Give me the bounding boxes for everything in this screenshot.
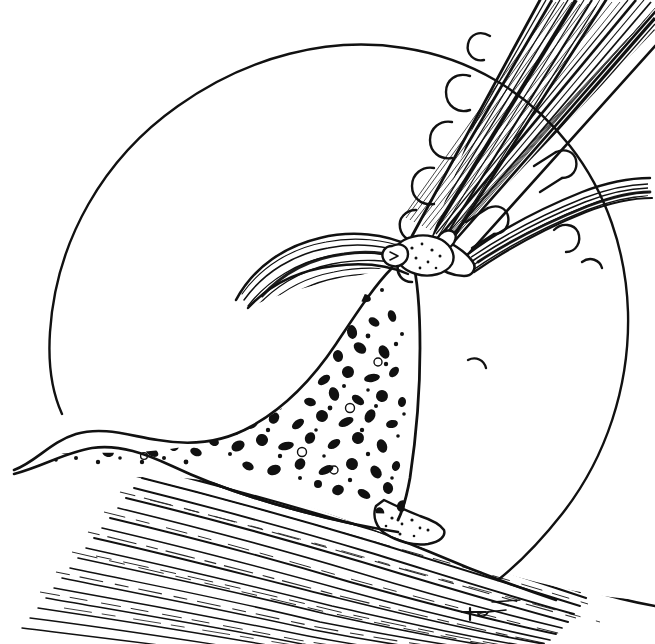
tissue-bump [382,244,408,266]
surgical-illustration-figure: Subperiosteal dissection of soft tissue … [0,0,655,644]
illustration-canvas [0,0,655,644]
